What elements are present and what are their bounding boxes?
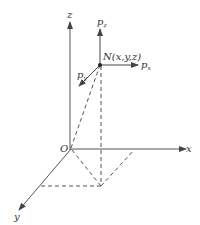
origin-label: O <box>60 143 68 154</box>
px-label: px <box>141 59 151 71</box>
dashed-projection-to-x <box>101 150 134 186</box>
y-axis <box>19 149 71 210</box>
diagram-canvas: z x y O N(x,y,z) pz px py <box>0 0 200 225</box>
point-n-label: N(x,y,z) <box>102 51 141 62</box>
pz-label: pz <box>97 16 107 28</box>
dashed-origin-to-projection <box>72 150 101 186</box>
py-label: py <box>77 69 87 82</box>
x-axis-label: x <box>186 143 192 154</box>
y-axis-label: y <box>13 211 20 222</box>
point-n <box>98 63 102 67</box>
z-axis-label: z <box>66 9 73 20</box>
